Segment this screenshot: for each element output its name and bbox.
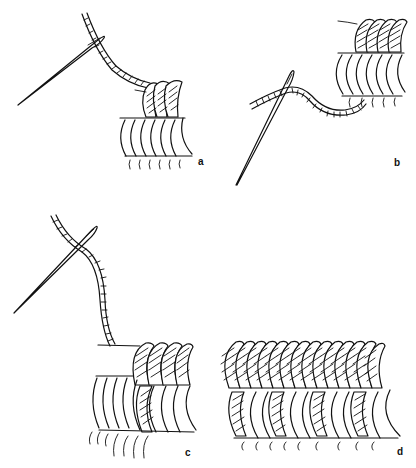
stitch-diagram: a: [0, 0, 416, 468]
panel-label-d: d: [397, 447, 403, 457]
coil-row: [229, 390, 400, 438]
fringe: [242, 442, 374, 450]
panel-d: d: [0, 0, 416, 468]
panel-d-drawing: [0, 0, 416, 468]
hatched-wraps-row: [221, 341, 385, 388]
